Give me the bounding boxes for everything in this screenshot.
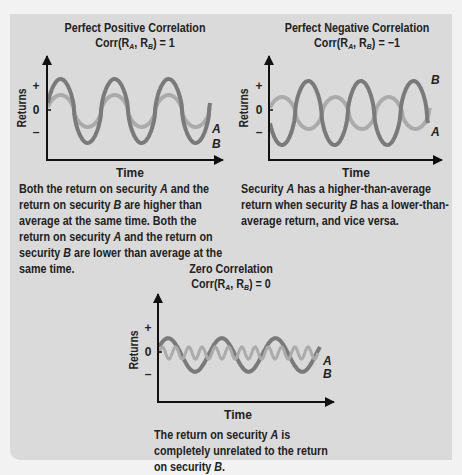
chart2-ylabel: Returns — [237, 89, 250, 128]
chart1-ytick-minus: – — [33, 125, 40, 139]
chart3-label-a: A — [322, 354, 332, 368]
chart1-series-b — [48, 79, 210, 143]
chart3-series-b — [159, 338, 320, 372]
chart3-ytick-plus: + — [144, 321, 151, 335]
chart3-ytick-minus: – — [145, 367, 152, 381]
chart3-label-b: B — [323, 367, 332, 381]
chart1-plot: + 0 – Returns Time A B — [15, 56, 223, 180]
chart1-ylabel: Returns — [15, 89, 28, 128]
chart3-caption: The return on security A is completely u… — [154, 427, 335, 475]
chart2-ytick-plus: + — [255, 79, 262, 93]
chart2-label-b: B — [431, 73, 440, 87]
chart1-ytick-plus: + — [32, 79, 39, 93]
chart1-label-a: A — [211, 122, 221, 136]
chart3-ylabel: Returns — [127, 331, 140, 370]
chart3-xlabel: Time — [224, 408, 252, 422]
chart1-xlabel: Time — [116, 166, 144, 180]
chart3-series-a — [159, 347, 318, 359]
chart1-caption: Both the return on security A and the re… — [19, 181, 230, 277]
chart2-xlabel: Time — [342, 166, 370, 180]
chart2-series-b — [270, 81, 428, 145]
chart3-ytick-zero: 0 — [145, 345, 152, 359]
chart2-plot: + 0 – Returns Time B A — [237, 56, 442, 180]
chart3-plot: + 0 – Returns Time A B — [127, 294, 334, 422]
chart1-ytick-zero: 0 — [33, 103, 40, 117]
chart2-label-a: A — [430, 125, 440, 139]
chart1-label-b: B — [212, 137, 221, 151]
chart2-ytick-zero: 0 — [256, 103, 263, 117]
chart2-ytick-minus: – — [256, 125, 263, 139]
chart2-caption: Security A has a higher-than-average ret… — [241, 181, 452, 229]
